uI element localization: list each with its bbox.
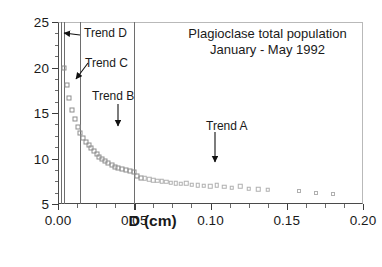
x-axis-tick-major (287, 204, 288, 210)
x-axis-tick-minor (325, 204, 326, 208)
x-axis-tick-major (363, 204, 364, 210)
x-axis-tick-major (58, 204, 59, 210)
annotation-trend-a: Trend A (206, 119, 248, 133)
y-axis-tick-label: 10 (34, 151, 49, 166)
x-axis-tick-label: 0.05 (121, 213, 148, 228)
plot-area: 510152025 0.000.050.100.150.20 (58, 22, 363, 204)
x-axis-tick-minor (268, 204, 269, 208)
y-axis-tick-label: 20 (34, 60, 49, 75)
x-axis-tick-minor (153, 204, 154, 208)
annotation-trend-d: Trend D (84, 26, 127, 40)
annotation-trend-b: Trend B (92, 89, 134, 103)
x-axis-tick-label: 0.00 (45, 213, 72, 228)
chart-figure: Plagioclase total population January - M… (0, 0, 382, 267)
x-axis-tick-minor (344, 204, 345, 208)
x-axis-tick-minor (77, 204, 78, 208)
y-axis-tick-label: 15 (34, 106, 49, 121)
x-axis-tick-minor (230, 204, 231, 208)
y-axis-tick-label: 5 (41, 197, 49, 212)
x-axis-tick-label: 0.10 (197, 213, 224, 228)
x-axis-tick-minor (191, 204, 192, 208)
x-axis-tick-label: 0.15 (273, 213, 300, 228)
y-axis-tick-label: 25 (34, 15, 49, 30)
x-axis-tick-major (211, 204, 212, 210)
annotation-arrows (58, 22, 363, 204)
x-axis-tick-minor (96, 204, 97, 208)
annotation-trend-c: Trend C (85, 56, 128, 70)
x-axis-tick-major (134, 204, 135, 210)
x-axis-tick-minor (115, 204, 116, 208)
x-axis-tick-minor (306, 204, 307, 208)
x-axis-tick-minor (172, 204, 173, 208)
x-axis-tick-label: 0.20 (350, 213, 377, 228)
x-axis-tick-minor (249, 204, 250, 208)
